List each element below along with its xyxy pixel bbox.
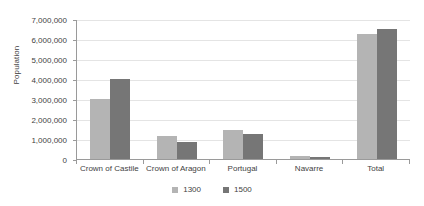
bar-group (210, 20, 277, 159)
bar-1300 (223, 130, 243, 159)
bar-group (144, 20, 211, 159)
y-axis-tick-label: 2,000,000 (0, 116, 67, 125)
y-axis-tick-mark (73, 80, 76, 81)
legend: 13001500 (0, 186, 424, 194)
bar-chart: Population 01,000,0002,000,0003,000,0004… (0, 0, 424, 206)
y-axis-tick-label: 3,000,000 (0, 96, 67, 105)
x-axis-tick-label: Navarre (295, 164, 323, 173)
x-axis-tick-label: Portugal (228, 164, 258, 173)
legend-swatch-icon (172, 187, 178, 193)
y-axis-tick-label: 4,000,000 (0, 76, 67, 85)
x-axis-tick-mark (76, 160, 77, 164)
y-axis-tick-mark (73, 100, 76, 101)
x-axis-ticks: Crown of CastileCrown of AragonPortugalN… (76, 160, 409, 180)
x-axis-tick-mark (409, 160, 410, 164)
x-axis-tick-mark (209, 160, 210, 164)
bar-1500 (377, 29, 397, 159)
y-axis-tick-label: 6,000,000 (0, 36, 67, 45)
bar-1500 (310, 157, 330, 159)
y-axis-tick-label: 1,000,000 (0, 136, 67, 145)
y-axis-tick-label: 5,000,000 (0, 56, 67, 65)
bar-group (343, 20, 410, 159)
bar-1300 (157, 136, 177, 159)
bar-group (77, 20, 144, 159)
legend-item: 1300 (172, 186, 201, 194)
y-axis-tick-mark (73, 140, 76, 141)
x-axis-tick-label: Crown of Aragon (146, 164, 206, 173)
y-axis-tick-label: 0 (0, 156, 67, 165)
bar-1300 (357, 34, 377, 159)
x-axis-tick-label: Crown of Castile (80, 164, 139, 173)
y-axis-tick-mark (73, 20, 76, 21)
legend-label: 1300 (183, 186, 201, 194)
bar-1500 (243, 134, 263, 159)
y-axis-tick-mark (73, 120, 76, 121)
y-axis-tick-mark (73, 40, 76, 41)
bar-1500 (110, 79, 130, 159)
bar-1500 (177, 142, 197, 159)
plot-area (76, 20, 410, 160)
bar-1300 (290, 156, 310, 159)
bar-1300 (90, 99, 110, 159)
bars-layer (77, 20, 410, 159)
legend-label: 1500 (234, 186, 252, 194)
y-axis-tick-mark (73, 60, 76, 61)
bar-group (277, 20, 344, 159)
x-axis-tick-label: Total (367, 164, 384, 173)
x-axis-tick-mark (143, 160, 144, 164)
legend-item: 1500 (223, 186, 252, 194)
x-axis-tick-mark (276, 160, 277, 164)
legend-swatch-icon (223, 187, 229, 193)
x-axis-tick-mark (342, 160, 343, 164)
y-axis-tick-label: 7,000,000 (0, 16, 67, 25)
